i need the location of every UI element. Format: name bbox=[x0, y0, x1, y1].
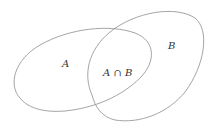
intersection-label: A ∩ B bbox=[102, 67, 132, 78]
venn-diagram: A B A ∩ B bbox=[0, 0, 214, 130]
set-b-label: B bbox=[167, 40, 175, 51]
set-a-label: A bbox=[61, 58, 69, 69]
